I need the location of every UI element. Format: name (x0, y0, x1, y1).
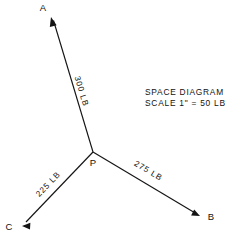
space-diagram-canvas: A 300 LB B 275 LB C 225 LB P SPACE DIAGR… (0, 0, 238, 238)
point-label-a: A (40, 2, 47, 13)
point-label-p: P (90, 157, 97, 168)
force-line-a (54, 21, 94, 153)
force-line-b (93, 152, 196, 214)
magnitude-label-c: 225 LB (34, 170, 62, 199)
caption-title-line: SPACE DIAGRAM (145, 87, 224, 97)
arrowhead-b-icon (191, 210, 200, 217)
arrowhead-c-icon (22, 223, 30, 230)
arrowhead-a-icon (50, 17, 57, 27)
force-line-c (26, 152, 93, 222)
space-diagram-figure: A 300 LB B 275 LB C 225 LB P SPACE DIAGR… (0, 0, 238, 238)
magnitude-label-b: 275 LB (133, 159, 165, 183)
point-label-c: C (5, 221, 12, 232)
caption-scale-line: SCALE 1" = 50 LB (145, 98, 226, 108)
force-vector-a: A 300 LB (40, 2, 93, 152)
diagram-caption: SPACE DIAGRAM SCALE 1" = 50 LB (145, 87, 226, 108)
force-vector-b: B 275 LB (93, 152, 214, 222)
point-label-b: B (208, 211, 215, 222)
force-vector-c: C 225 LB (5, 152, 93, 232)
